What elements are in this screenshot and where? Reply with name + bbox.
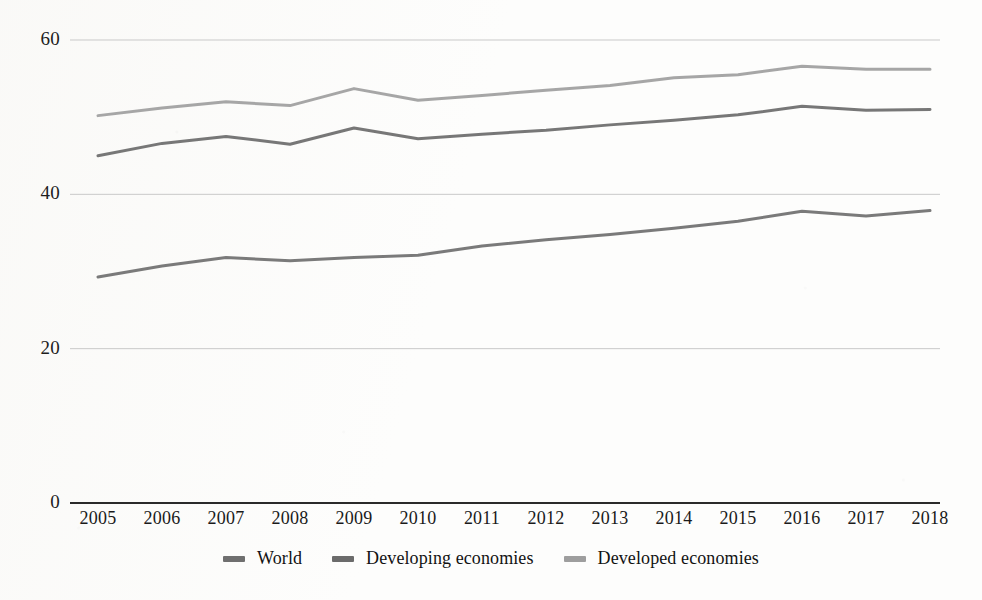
legend-item-developing-economies[interactable]: Developing economies: [332, 548, 533, 569]
y-tick-label: 0: [14, 491, 60, 513]
legend-label: Developing economies: [366, 548, 533, 569]
legend-item-world[interactable]: World: [223, 548, 302, 569]
series-line-developing-economies: [98, 106, 930, 155]
legend-label: Developed economies: [598, 548, 759, 569]
chart-page: 0204060 20052006200720082009201020112012…: [0, 0, 982, 600]
gridlines: [70, 40, 940, 503]
x-tick-label-2018: 2018: [898, 508, 962, 529]
chart-legend: WorldDeveloping economiesDeveloped econo…: [0, 548, 982, 569]
x-tick-label-2012: 2012: [514, 508, 578, 529]
y-tick-label: 40: [14, 182, 60, 204]
x-tick-label-2015: 2015: [706, 508, 770, 529]
series-line-developed-economies: [98, 66, 930, 115]
x-tick-label-2016: 2016: [770, 508, 834, 529]
x-tick-label-2005: 2005: [66, 508, 130, 529]
x-tick-label-2014: 2014: [642, 508, 706, 529]
x-tick-label-2017: 2017: [834, 508, 898, 529]
legend-item-developed-economies[interactable]: Developed economies: [564, 548, 759, 569]
legend-swatch-icon: [223, 556, 245, 562]
legend-swatch-icon: [564, 556, 586, 562]
x-tick-label-2008: 2008: [258, 508, 322, 529]
y-tick-label: 60: [14, 28, 60, 50]
legend-label: World: [257, 548, 302, 569]
x-tick-label-2006: 2006: [130, 508, 194, 529]
x-tick-label-2009: 2009: [322, 508, 386, 529]
x-tick-label-2011: 2011: [450, 508, 514, 529]
legend-swatch-icon: [332, 556, 354, 562]
x-tick-label-2007: 2007: [194, 508, 258, 529]
x-tick-label-2013: 2013: [578, 508, 642, 529]
series-line-world: [98, 211, 930, 277]
line-chart: 0204060 20052006200720082009201020112012…: [0, 0, 982, 600]
series-lines: [98, 66, 930, 277]
y-tick-label: 20: [14, 337, 60, 359]
x-tick-label-2010: 2010: [386, 508, 450, 529]
